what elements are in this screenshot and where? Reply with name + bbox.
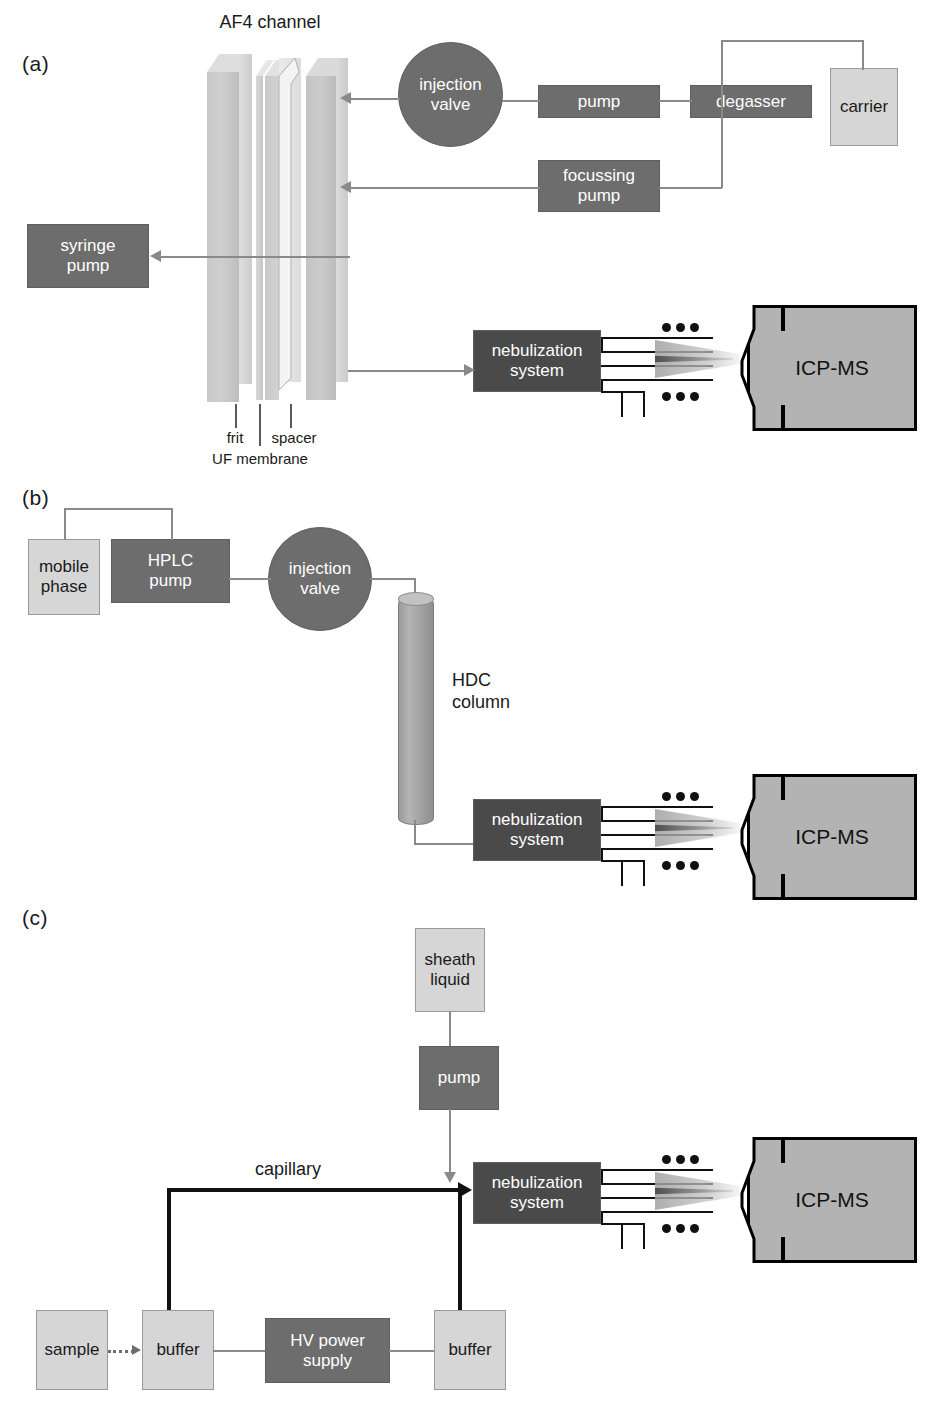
- node-nebulization-system-b[interactable]: nebulization system: [473, 799, 601, 861]
- node-label: sheath liquid: [424, 950, 475, 989]
- node-nebulization-system-a[interactable]: nebulization system: [473, 330, 601, 392]
- node-label: ICP-MS: [795, 356, 869, 380]
- conn-degasser-to-pump: [659, 100, 692, 102]
- icp-cone-c: [740, 1137, 770, 1263]
- node-carrier[interactable]: carrier: [830, 68, 898, 146]
- capillary-left-vertical: [167, 1188, 171, 1311]
- label-frit: frit: [208, 429, 262, 447]
- icp-cone-b: [740, 774, 770, 900]
- node-label: pump: [438, 1068, 481, 1088]
- conn-column-to-neb-b: [414, 843, 474, 845]
- af4-plate-frit-side: [239, 54, 252, 384]
- node-degasser[interactable]: degasser: [690, 85, 812, 118]
- node-label: degasser: [716, 92, 786, 112]
- af4-uf-membrane: [256, 76, 263, 400]
- node-syringe-pump[interactable]: syringe pump: [27, 224, 149, 288]
- af4-plate-frit: [207, 72, 239, 402]
- af4-channel-cutout: [265, 58, 305, 403]
- node-label: HV power supply: [290, 1331, 365, 1370]
- node-mobile-phase[interactable]: mobile phase: [28, 539, 100, 615]
- label-hdc-column: HDC column: [452, 670, 572, 713]
- figure-canvas: (a) AF4 channel frit spacer UF membrane: [0, 0, 930, 1405]
- conn-pump-to-valve: [502, 100, 540, 102]
- conn-hplc-pump-up: [171, 508, 173, 540]
- label-uf-membrane: UF membrane: [190, 450, 330, 468]
- node-icp-ms-c[interactable]: ICP-MS: [747, 1137, 917, 1263]
- panel-label-a: (a): [22, 52, 49, 76]
- node-hv-power-supply[interactable]: HV power supply: [265, 1318, 390, 1383]
- node-pump-a[interactable]: pump: [538, 85, 660, 118]
- conn-mobile-phase-up: [64, 508, 66, 540]
- conn-pump-to-neb-c: [449, 1109, 451, 1177]
- conn-to-focussing-pump: [659, 187, 722, 189]
- leader-frit: [235, 404, 237, 428]
- node-label: pump: [578, 92, 621, 112]
- conn-hplc-to-valve: [229, 578, 271, 580]
- node-label: HPLC pump: [148, 551, 193, 590]
- node-label: ICP-MS: [795, 1188, 869, 1212]
- af4-front-side: [336, 58, 348, 382]
- node-label: nebulization system: [492, 810, 583, 849]
- conn-sheath-to-pump: [449, 1011, 451, 1047]
- node-label: injection valve: [289, 559, 351, 598]
- node-label: mobile phase: [39, 557, 89, 596]
- node-label: carrier: [840, 97, 888, 117]
- node-label: nebulization system: [492, 1173, 583, 1212]
- leader-spacer: [290, 404, 292, 428]
- node-label: ICP-MS: [795, 825, 869, 849]
- node-buffer-right[interactable]: buffer: [434, 1310, 506, 1390]
- conn-focussing-to-channel: [348, 187, 540, 189]
- node-sheath-liquid[interactable]: sheath liquid: [415, 928, 485, 1012]
- node-label: nebulization system: [492, 341, 583, 380]
- conn-valve-to-column: [370, 578, 415, 580]
- conn-buffer-left-to-hv: [213, 1350, 266, 1352]
- label-spacer: spacer: [264, 429, 324, 447]
- node-label: injection valve: [419, 75, 481, 114]
- arrowhead-channel-to-syringe: [150, 250, 161, 262]
- node-label: syringe pump: [61, 236, 116, 275]
- conn-valve-to-channel: [348, 98, 400, 100]
- panel-label-b: (b): [22, 486, 49, 510]
- conn-carrier-top: [862, 40, 864, 70]
- node-icp-ms-b[interactable]: ICP-MS: [747, 774, 917, 900]
- conn-carrier-down: [721, 40, 723, 188]
- conn-column-down: [414, 820, 416, 844]
- conn-channel-to-syringe: [160, 256, 350, 258]
- node-injection-valve-a[interactable]: injection valve: [398, 42, 503, 147]
- arrowhead-focussing-to-channel: [340, 181, 351, 193]
- node-injection-valve-b[interactable]: injection valve: [268, 527, 372, 631]
- af4-plate-front: [306, 76, 336, 400]
- capillary-right-vertical: [458, 1188, 462, 1311]
- label-capillary: capillary: [228, 1159, 348, 1181]
- arrowhead-pump-to-neb-c: [444, 1172, 456, 1183]
- node-sample[interactable]: sample: [36, 1310, 108, 1390]
- conn-carrier-bracket: [721, 40, 864, 42]
- conn-sample-to-buffer: [108, 1350, 134, 1353]
- arrowhead-sample-to-buffer: [132, 1345, 141, 1355]
- node-focussing-pump[interactable]: focussing pump: [538, 160, 660, 212]
- node-label: buffer: [448, 1340, 491, 1360]
- arrowhead-channel-to-neb-a: [464, 364, 475, 376]
- node-label: sample: [45, 1340, 100, 1360]
- node-hplc-pump[interactable]: HPLC pump: [111, 539, 230, 603]
- panel-label-c: (c): [22, 906, 48, 930]
- arrowhead-valve-to-channel: [340, 92, 351, 104]
- hdc-column-cap: [398, 592, 434, 606]
- node-pump-c[interactable]: pump: [419, 1046, 499, 1110]
- af4-channel-title: AF4 channel: [190, 12, 350, 34]
- conn-channel-to-neb-a: [348, 370, 466, 372]
- icp-cone-a: [740, 305, 770, 431]
- node-label: focussing pump: [563, 166, 635, 205]
- capillary-horizontal: [167, 1188, 461, 1192]
- node-buffer-left[interactable]: buffer: [142, 1310, 214, 1390]
- conn-mobile-bracket: [64, 508, 172, 510]
- node-label: buffer: [156, 1340, 199, 1360]
- node-nebulization-system-c[interactable]: nebulization system: [473, 1162, 601, 1224]
- node-icp-ms-a[interactable]: ICP-MS: [747, 305, 917, 431]
- node-hdc-column[interactable]: [398, 595, 434, 825]
